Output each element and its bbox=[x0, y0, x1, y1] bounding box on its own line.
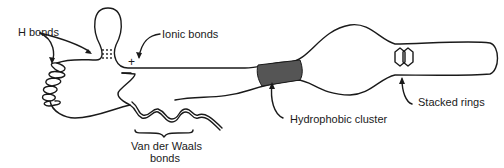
arrowhead-stacked bbox=[399, 77, 405, 84]
van-der-waals-wave-2 bbox=[132, 102, 222, 128]
hydrophobic-arrow bbox=[271, 84, 283, 118]
stacked-rings-label: Stacked rings bbox=[418, 96, 485, 108]
van-der-waals-label-line2: bonds bbox=[131, 152, 199, 164]
plus-charge-label: + bbox=[128, 56, 135, 68]
diagram-canvas bbox=[0, 0, 504, 168]
hydrophobic-cluster-label: Hydrophobic cluster bbox=[290, 113, 387, 125]
hydrophobic-cluster-region bbox=[257, 60, 302, 86]
ionic-bond-arrow bbox=[139, 34, 160, 57]
h-bonds-label: H bonds bbox=[18, 26, 59, 38]
polypeptide-chain-bottom bbox=[50, 73, 135, 118]
ionic-bonds-label: Ionic bonds bbox=[162, 28, 218, 40]
van-der-waals-label-line1: Van der Waals bbox=[131, 140, 199, 152]
protein-folding-diagram: H bonds Ionic bonds + Van der Waals bond… bbox=[0, 0, 504, 168]
alpha-helix bbox=[43, 63, 66, 106]
arrowhead-ionic bbox=[136, 52, 142, 59]
van-der-waals-brace bbox=[135, 130, 193, 137]
h-bond-dots bbox=[102, 49, 112, 59]
